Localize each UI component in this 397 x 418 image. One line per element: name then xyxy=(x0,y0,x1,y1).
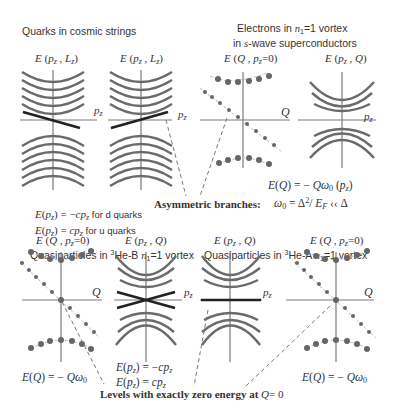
svg-text:Q: Q xyxy=(281,105,290,119)
pz-axis-label: pz xyxy=(93,104,104,118)
svg-text:Q: Q xyxy=(92,285,101,299)
formula-d-quarks: E(pz) = −cpz for d quarks xyxy=(34,208,142,222)
electrons-title-line2: in s-wave superconductors xyxy=(233,37,357,49)
svg-text:pz: pz xyxy=(363,110,374,124)
quark-panel-u: E (pz , Lz) pz xyxy=(108,52,188,190)
quark-left-label: E (pz , Lz) xyxy=(34,52,78,66)
svg-text:E (Q , pz=0): E (Q , pz=0) xyxy=(223,52,278,66)
formula-omega0: ω0 = Δ2/ EF ‹‹ Δ xyxy=(274,196,348,211)
heb-title: Quasiparticles in 3He-B n1=1 vortex xyxy=(30,249,195,262)
quarks-title: Quarks in cosmic strings xyxy=(22,25,136,37)
formula-electron-eq: E(Q) = − Qω0 (pz) xyxy=(267,179,353,193)
quark-right-label: E (pz , Lz) xyxy=(119,52,163,66)
svg-text:pz: pz xyxy=(262,286,273,300)
electron-panel-q: E (Q , pz=0) Q xyxy=(200,52,290,168)
electrons-title-line1: Electrons in n1=1 vortex xyxy=(237,22,348,35)
svg-text:E (pz , Q): E (pz , Q) xyxy=(213,234,256,248)
hea-title: Quasiparticles in 3He-A n1=1 vortex xyxy=(204,249,368,262)
svg-text:E (Q , pz=0): E (Q , pz=0) xyxy=(35,234,90,248)
quark-panel-d: E (pz , Lz) pz xyxy=(20,52,104,190)
svg-text:E (Q , pz=0): E (Q , pz=0) xyxy=(309,234,364,248)
formula-heb-right-1: E(pz) = −cpz xyxy=(115,361,173,375)
electron-panel-pz: E (pz , Q) pz xyxy=(298,52,376,168)
connector-electron-to-asym xyxy=(200,118,227,196)
connector-hea-pz-to-zero xyxy=(194,310,208,386)
physics-diagram: Quarks in cosmic strings E (pz , Lz) pz … xyxy=(0,0,397,418)
asymmetric-branches-label: Asymmetric branches: xyxy=(154,198,261,210)
formula-hea-right: E(Q) = − Qω0 xyxy=(301,371,367,385)
svg-text:E (pz , Q): E (pz , Q) xyxy=(324,52,367,66)
zero-levels-label: Levels with exactly zero energy at Q= 0 xyxy=(100,388,284,400)
heb-panel-q: E (Q , pz=0) Q xyxy=(20,234,102,362)
svg-text:E (pz , Q): E (pz , Q) xyxy=(124,234,167,248)
svg-text:pz: pz xyxy=(177,108,188,122)
svg-text:Q: Q xyxy=(364,285,373,299)
formula-heb-left: E(Q) = − Qω0 xyxy=(21,371,87,385)
svg-text:pz: pz xyxy=(183,286,194,300)
